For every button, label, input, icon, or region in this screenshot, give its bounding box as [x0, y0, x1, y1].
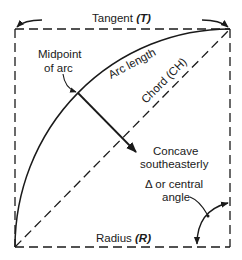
delta-label-line1: Δ or central	[145, 178, 203, 190]
delta-leader	[190, 197, 207, 214]
midpoint-label-line1: Midpoint	[38, 48, 82, 60]
concave-label-line2: southeasterly	[140, 158, 209, 170]
delta-leader-dot	[207, 215, 210, 218]
curve-diagram: Tangent (T) Midpoint of arc Arc length C…	[0, 0, 242, 260]
chord-label: Chord (CH)	[139, 55, 189, 105]
midpoint-label-line2: of arc	[44, 62, 73, 74]
tangent-arrow-left	[17, 20, 42, 27]
radius-label: Radius (R)	[96, 232, 151, 244]
midpoint-leader	[63, 74, 76, 92]
delta-label-line2: angle	[162, 191, 190, 203]
concave-direction-arrow	[78, 93, 136, 152]
tangent-arrow-right	[202, 20, 228, 27]
concave-label-line1: Concave	[153, 145, 198, 157]
central-angle-arc	[197, 203, 228, 244]
tangent-label: Tangent (T)	[92, 12, 151, 24]
